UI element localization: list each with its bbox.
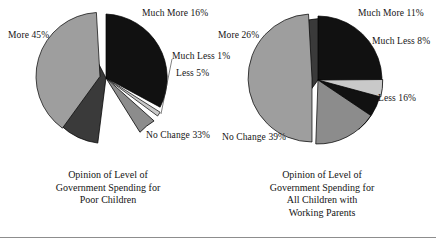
right-label-less: Less 16% xyxy=(378,93,416,104)
left-label-more: More 45% xyxy=(8,30,49,41)
left-label-much-less: Much Less 1% xyxy=(172,51,230,62)
left-label-less: Less 5% xyxy=(176,68,209,79)
figure-canvas: Much More 16% Much Less 1% Less 5% No Ch… xyxy=(0,0,436,246)
right-label-much-less: Much Less 8% xyxy=(372,36,430,47)
right-chart-caption: Opinion of Level of Government Spending … xyxy=(230,169,414,219)
left-pie-chart xyxy=(34,13,167,144)
bottom-divider xyxy=(0,237,436,238)
right-pie-chart xyxy=(232,0,388,146)
right-label-much-more: Much More 11% xyxy=(358,8,424,19)
left-chart-caption: Opinion of Level of Government Spending … xyxy=(20,169,196,207)
right-label-no-change: No Change 39% xyxy=(222,132,286,143)
right-label-more: More 26% xyxy=(218,30,259,41)
left-label-much-more: Much More 16% xyxy=(142,8,208,19)
left-label-no-change: No Change 33% xyxy=(146,130,210,141)
